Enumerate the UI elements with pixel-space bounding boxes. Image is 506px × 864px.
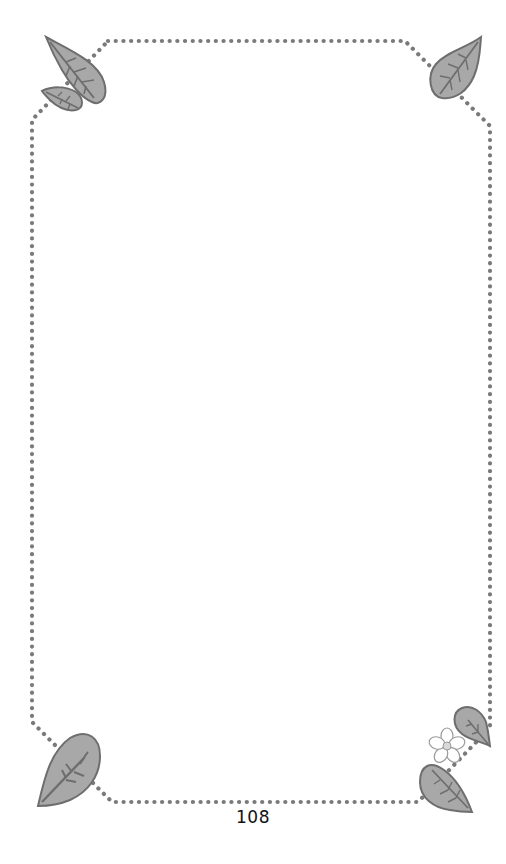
page-number: 108 [0, 807, 506, 827]
writing-area [40, 50, 482, 794]
notebook-page: 108 [0, 0, 506, 864]
